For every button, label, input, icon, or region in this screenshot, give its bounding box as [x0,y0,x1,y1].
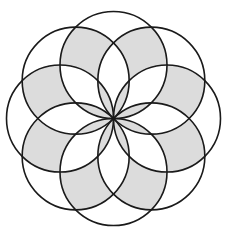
center-point [112,117,115,120]
overlapping-circles-figure [0,0,226,229]
rosette-diagram [0,0,226,229]
